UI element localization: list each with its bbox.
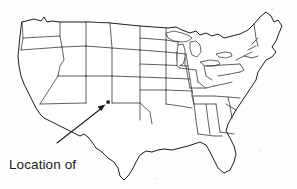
caption-line-1: Location of	[9, 157, 139, 173]
map-1-location-marker	[107, 101, 110, 104]
figure-caption: Location of map 1	[9, 141, 139, 188]
caption-line-2: map 1	[9, 188, 139, 189]
figure-location-of-map-1: Location of map 1	[0, 0, 297, 188]
